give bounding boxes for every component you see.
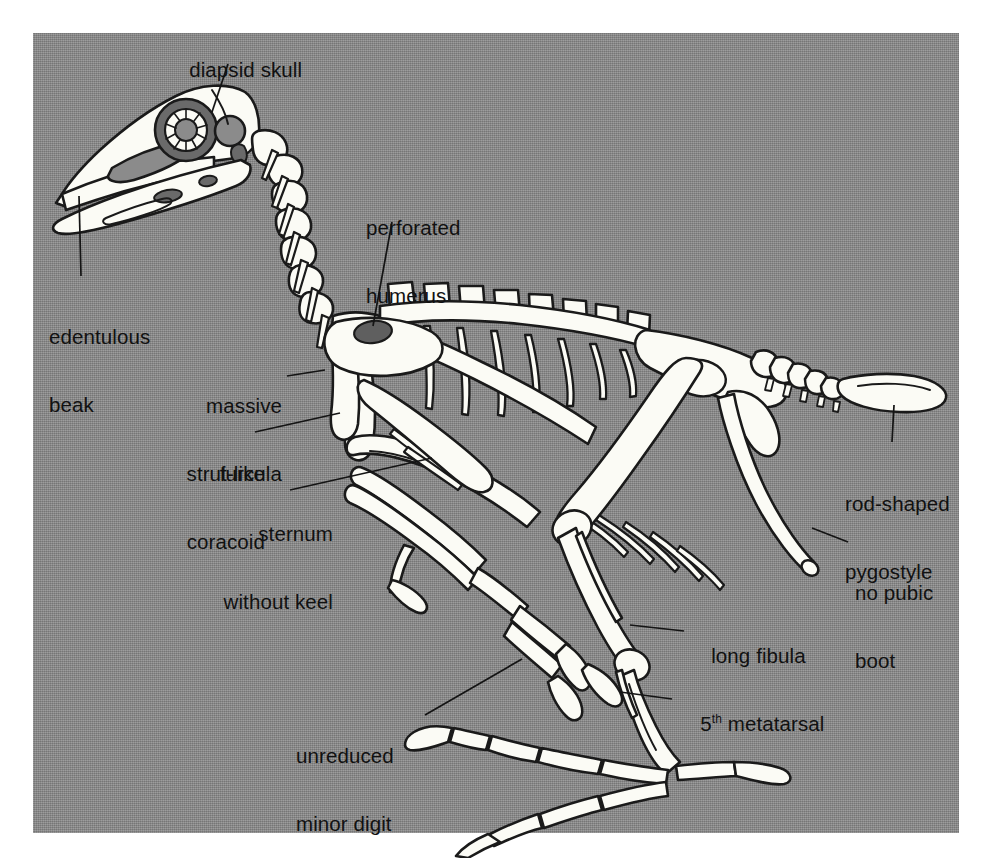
metatarsal-word: metatarsal <box>722 712 825 735</box>
leader-long-fibula <box>630 625 684 631</box>
label-sternum-without-keel: sternum without keel <box>133 478 333 658</box>
label-perforated-humerus: perforated humerus <box>366 172 460 352</box>
pedal-claw-III <box>405 726 452 750</box>
skull <box>53 86 259 234</box>
label-line: without keel <box>133 591 333 614</box>
pygostyle <box>838 374 947 412</box>
cervical-vertebrae <box>252 130 333 348</box>
label-no-pubic-boot: no pubic boot <box>855 537 933 717</box>
label-line: unreduced <box>296 745 394 768</box>
leader-edentulous-beak <box>79 196 81 276</box>
label-line: no pubic <box>855 582 933 605</box>
label-unreduced-minor-digit: unreduced minor digit <box>296 700 394 858</box>
pedal-claw-II <box>456 834 500 858</box>
metatarsal-number: 5 <box>700 712 712 735</box>
label-line: sternum <box>133 523 333 546</box>
leader-massive-furcula <box>287 370 325 376</box>
hallux-claw <box>734 762 790 784</box>
ordinal-suffix: th <box>712 712 722 726</box>
leader-unreduced-minor-digit <box>425 659 522 715</box>
label-line: boot <box>855 650 933 673</box>
label-fifth-metatarsal: 5th metatarsal <box>677 690 824 758</box>
leader-no-pubic-boot <box>812 528 848 542</box>
anatomical-figure: diapsid skull edentulous beak perforated… <box>0 0 999 858</box>
label-line: minor digit <box>296 813 394 836</box>
label-line: massive <box>132 395 282 418</box>
label-line: edentulous <box>49 326 150 349</box>
label-line: perforated <box>366 217 460 240</box>
label-diapsid-skull: diapsid skull <box>166 36 302 104</box>
label-long-fibula: long fibula <box>688 622 806 690</box>
label-line: humerus <box>366 285 460 308</box>
label-line: rod-shaped <box>845 493 950 516</box>
alular-claw <box>388 580 427 613</box>
